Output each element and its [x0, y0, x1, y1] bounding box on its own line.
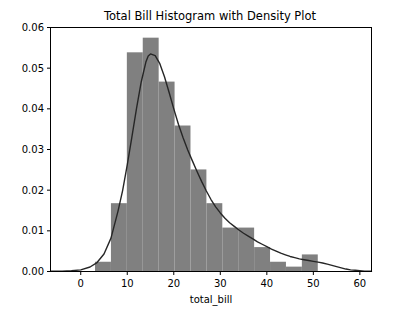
x-tick-label: 40 [260, 278, 273, 289]
histogram-bar [95, 262, 111, 272]
y-tick-label: 0.00 [22, 266, 44, 277]
x-tick-label: 60 [354, 278, 367, 289]
histogram-bar [286, 267, 302, 272]
y-tick-label: 0.03 [22, 144, 44, 155]
histogram-bar [111, 203, 127, 271]
x-tick-label: 0 [78, 278, 84, 289]
x-tick-label: 20 [167, 278, 180, 289]
chart-title: Total Bill Histogram with Density Plot [103, 9, 317, 23]
histogram-bar [159, 82, 175, 272]
x-axis-label: total_bill [190, 294, 233, 306]
y-tick-label: 0.06 [22, 22, 44, 33]
histogram-bar [254, 247, 270, 271]
histogram-bar [270, 262, 286, 272]
histogram-bar [222, 228, 238, 272]
chart-figure: Total Bill Histogram with Density Plot 0… [0, 0, 395, 322]
histogram-density-chart: Total Bill Histogram with Density Plot 0… [0, 0, 395, 322]
y-tick-label: 0.01 [22, 225, 44, 236]
y-tick-label: 0.02 [22, 185, 44, 196]
histogram-bar [175, 126, 191, 272]
histogram-bar [302, 254, 318, 271]
y-tick-label: 0.05 [22, 63, 44, 74]
x-tick-label: 10 [121, 278, 134, 289]
y-tick-label: 0.04 [22, 103, 44, 114]
figure-background [0, 0, 395, 322]
histogram-bar [143, 38, 159, 272]
x-tick-label: 50 [307, 278, 320, 289]
x-tick-label: 30 [214, 278, 227, 289]
